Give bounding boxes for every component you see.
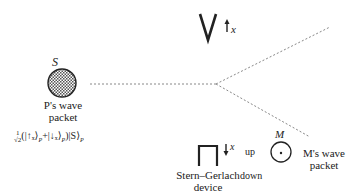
bottom-axis-label: x — [230, 141, 234, 153]
m-wave-packet-caption: M's wave packet — [296, 147, 352, 171]
formula-down-term: +|↓ₓ⟩ — [42, 130, 61, 141]
arrow-up-icon — [225, 19, 230, 32]
top-axis-label: x — [231, 23, 236, 35]
sg-caption-line2: device — [176, 181, 240, 193]
bottom-magnet-u — [199, 146, 217, 166]
m-label: M — [275, 128, 284, 140]
sg-caption-line1: Stern–Gerlach — [176, 169, 240, 181]
formula-s-term: )|S⟩ — [65, 130, 80, 141]
p-wave-packet-caption: P's wave packet — [36, 99, 90, 123]
s-wave-packet-circle — [48, 69, 76, 97]
p-caption-line2: packet — [36, 111, 90, 123]
state-formula: 1 √2 (|↑ₓ⟩P+|↓ₓ⟩P)|S⟩P — [14, 130, 84, 144]
s-label: S — [52, 56, 58, 68]
m-caption-line2: packet — [296, 159, 352, 171]
p-caption-line1: P's wave — [36, 99, 90, 111]
down-label: down — [240, 170, 262, 182]
formula-sub-p3: P — [80, 137, 84, 143]
stern-gerlach-caption: Stern–Gerlach device — [176, 169, 240, 193]
arrow-down-icon — [224, 144, 229, 156]
m-caption-line1: M's wave — [296, 147, 352, 159]
formula-up-term: (|↑ₓ⟩ — [21, 130, 38, 141]
m-pointer-dot — [280, 152, 282, 154]
top-magnet-v — [200, 14, 216, 40]
trajectory-lines — [90, 27, 330, 137]
up-label: up — [245, 146, 255, 158]
